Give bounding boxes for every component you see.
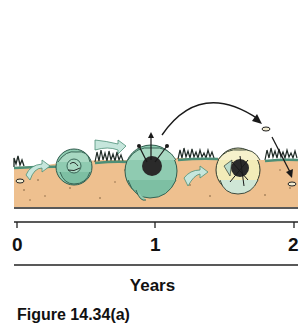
tick-label-0: 0 bbox=[12, 234, 23, 256]
seed-start bbox=[16, 179, 24, 183]
juvenile-rosette bbox=[56, 149, 92, 185]
seed-landed bbox=[288, 182, 296, 186]
figure-caption: Figure 14.34(a) bbox=[17, 306, 130, 324]
flowering-rosette bbox=[125, 132, 177, 200]
seed-airborne bbox=[262, 127, 270, 131]
axis-title: Years bbox=[0, 276, 305, 296]
tick-label-2: 2 bbox=[288, 234, 299, 256]
tick-label-1: 1 bbox=[150, 234, 161, 256]
growth-arrow-2 bbox=[95, 140, 126, 154]
